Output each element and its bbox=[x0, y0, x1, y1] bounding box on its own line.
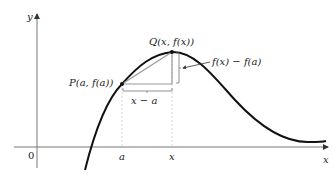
point-p bbox=[120, 82, 124, 86]
point-q-label: Q(x, f(x)) bbox=[149, 36, 194, 47]
point-p-label: P(a, f(a)) bbox=[68, 77, 113, 88]
secant-diagram: y x 0 a x P(a, f(a)) Q(x, f(x)) x − a f(… bbox=[0, 0, 336, 180]
tick-x-label: x bbox=[169, 151, 175, 162]
rise-brace bbox=[176, 53, 181, 83]
run-brace bbox=[123, 88, 172, 93]
y-axis-label: y bbox=[26, 11, 33, 22]
run-label: x − a bbox=[131, 95, 157, 106]
point-q bbox=[170, 50, 174, 54]
rise-pointer bbox=[183, 62, 210, 68]
secant-line bbox=[122, 52, 172, 84]
origin-label: 0 bbox=[28, 150, 34, 161]
x-axis-label: x bbox=[323, 154, 329, 165]
tick-a-label: a bbox=[119, 151, 125, 162]
rise-label: f(x) − f(a) bbox=[211, 56, 261, 67]
